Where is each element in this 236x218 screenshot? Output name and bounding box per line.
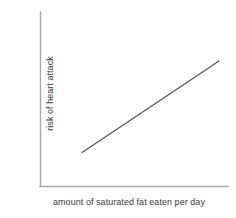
y-axis-label: risk of heart attack	[45, 56, 56, 131]
y-axis-label-container: risk of heart attack	[0, 0, 44, 186]
x-axis-label: amount of saturated fat eaten per day	[0, 197, 236, 208]
chart-figure: risk of heart attack amount of saturated…	[0, 0, 236, 218]
trend-line	[82, 61, 219, 153]
